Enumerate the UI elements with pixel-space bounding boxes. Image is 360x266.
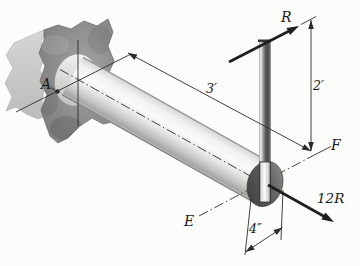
label-force-r: R xyxy=(281,10,292,24)
label-dim-2ft: 2′ xyxy=(313,80,324,93)
label-point-a: A xyxy=(41,77,51,91)
diagram-canvas xyxy=(0,0,360,266)
mechanics-figure: A R 3′ 2′ F E 12R 4″ xyxy=(0,0,360,266)
label-force-12r: 12R xyxy=(317,192,344,206)
point-a-marker xyxy=(55,89,59,93)
label-dim-3ft: 3′ xyxy=(206,83,217,96)
vertical-rod xyxy=(258,40,271,203)
label-point-e: E xyxy=(184,214,194,228)
label-dim-4in: 4″ xyxy=(249,223,262,236)
label-point-f: F xyxy=(331,138,341,152)
